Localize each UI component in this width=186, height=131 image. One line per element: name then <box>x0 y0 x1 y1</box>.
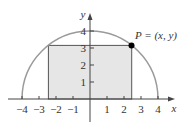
x-tick-label: 2 <box>121 103 127 115</box>
y-tick-label: 3 <box>81 42 87 54</box>
x-tick-label: −3 <box>33 103 45 115</box>
semicircle-diagram: −4 −3 −2 −1 1 2 3 4 1 2 3 4 x y P = (x, … <box>0 0 186 131</box>
y-tick-label: 2 <box>81 59 87 71</box>
x-tick-label: 3 <box>138 103 144 115</box>
y-tick-label: 1 <box>81 76 87 88</box>
x-tick-label: −4 <box>16 103 28 115</box>
y-axis-arrow-icon <box>88 13 93 20</box>
y-axis-label: y <box>80 8 86 20</box>
point-p-label: P = (x, y) <box>134 29 177 42</box>
x-axis-label: x <box>171 102 177 114</box>
x-axis-arrow-icon <box>168 97 175 102</box>
x-tick-label: 1 <box>104 103 110 115</box>
y-tick-label: 4 <box>81 25 87 37</box>
point-p <box>129 43 135 49</box>
x-tick-label: −2 <box>50 103 62 115</box>
x-tick-label: 4 <box>155 103 161 115</box>
x-tick-label: −1 <box>67 103 79 115</box>
